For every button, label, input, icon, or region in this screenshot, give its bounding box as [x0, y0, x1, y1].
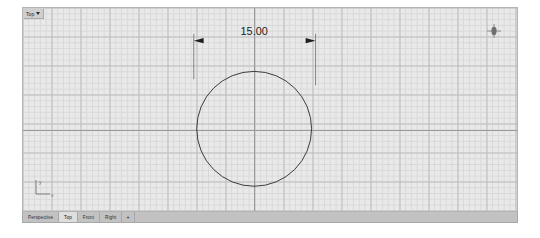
viewport-tab-bar[interactable]: Perspective Top Front Right + — [22, 212, 518, 223]
tab-top[interactable]: Top — [59, 212, 78, 222]
cad-application-window: 15.00 Top y x Perspective Top Front Righ… — [0, 0, 540, 238]
navigation-compass-icon[interactable] — [485, 22, 503, 40]
geometry-layer: 15.00 — [23, 8, 517, 211]
chevron-down-icon[interactable] — [36, 12, 40, 15]
dimension-arrow-left — [194, 38, 204, 43]
dimension-arrow-right — [306, 38, 316, 43]
tab-perspective[interactable]: Perspective — [23, 212, 59, 222]
circle-geometry[interactable] — [197, 71, 312, 186]
axis-gizmo-y-label: y — [39, 179, 42, 185]
tab-right[interactable]: Right — [100, 212, 122, 222]
viewport-title-label: Top — [26, 11, 34, 17]
tab-front[interactable]: Front — [78, 212, 100, 222]
top-viewport[interactable]: 15.00 Top y x — [22, 7, 518, 212]
cplane-axis-gizmo: y x — [33, 177, 55, 197]
add-viewport-tab-button[interactable]: + — [122, 212, 135, 222]
viewport-title[interactable]: Top — [24, 9, 44, 19]
dimension-label[interactable]: 15.00 — [241, 25, 268, 37]
axis-gizmo-x-label: x — [51, 192, 54, 197]
